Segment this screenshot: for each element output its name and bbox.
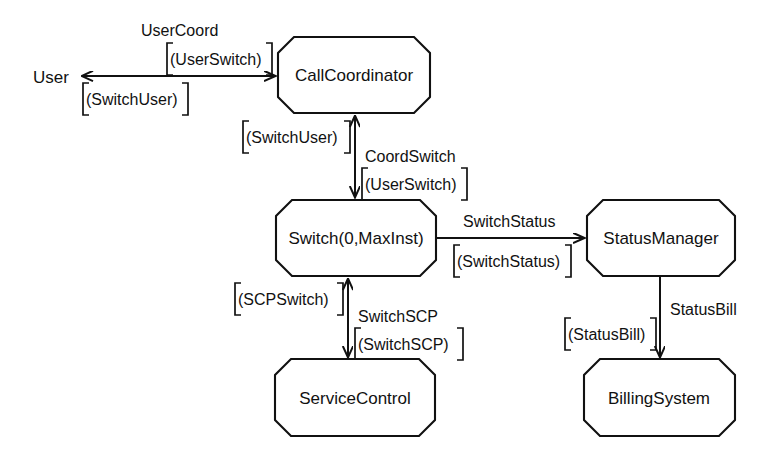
node-service-control[interactable]: ServiceControl bbox=[275, 359, 435, 436]
bracket-switchstatus-close bbox=[565, 245, 571, 277]
node-billing-system-label: BillingSystem bbox=[608, 389, 710, 408]
bracket-userswitch-close bbox=[266, 43, 272, 75]
edge-label-switchstatus: SwitchStatus bbox=[463, 213, 555, 230]
node-call-coordinator-label: CallCoordinator bbox=[295, 66, 413, 85]
edge-sublabel-scpswitch: (SCPSwitch) bbox=[238, 291, 329, 308]
node-switch[interactable]: Switch(0,MaxInst) bbox=[276, 200, 436, 276]
diagram-canvas: UserCoord (UserSwitch) (SwitchUser) Coor… bbox=[0, 0, 771, 456]
bracket-switchscp-close bbox=[457, 328, 463, 360]
node-call-coordinator[interactable]: CallCoordinator bbox=[278, 37, 430, 113]
bracket-statusbill-close bbox=[650, 318, 656, 350]
actor-user-label: User bbox=[33, 68, 69, 87]
edge-sublabel-switchscp: (SwitchSCP) bbox=[358, 336, 449, 353]
node-billing-system[interactable]: BillingSystem bbox=[584, 359, 735, 436]
bracket-switchuser-close bbox=[182, 83, 188, 115]
edge-sublabel-switchuser-1: (SwitchUser) bbox=[86, 91, 178, 108]
edge-switch-servicecontrol: SwitchSCP (SCPSwitch) (SwitchSCP) bbox=[235, 279, 463, 360]
node-service-control-label: ServiceControl bbox=[299, 389, 411, 408]
bracket-scpswitch-close bbox=[337, 283, 343, 315]
edge-sublabel-switchuser-2: (SwitchUser) bbox=[246, 129, 338, 146]
edge-label-switchscp: SwitchSCP bbox=[358, 308, 438, 325]
actor-user[interactable]: User bbox=[33, 68, 69, 87]
node-status-manager[interactable]: StatusManager bbox=[587, 200, 735, 276]
bracket-switchuser-2-close bbox=[344, 121, 350, 153]
node-status-manager-label: StatusManager bbox=[603, 229, 719, 248]
node-switch-label: Switch(0,MaxInst) bbox=[288, 229, 423, 248]
edge-label-usercoord: UserCoord bbox=[141, 22, 218, 39]
bracket-userswitch-2-close bbox=[461, 168, 467, 200]
edge-callcoordinator-switch: CoordSwitch (SwitchUser) (UserSwitch) bbox=[243, 116, 467, 200]
edge-sublabel-userswitch-2: (UserSwitch) bbox=[365, 176, 457, 193]
edge-label-coordswitch: CoordSwitch bbox=[365, 148, 456, 165]
edge-sublabel-switchstatus: (SwitchStatus) bbox=[457, 253, 560, 270]
edge-label-statusbill: StatusBill bbox=[670, 301, 737, 318]
diagram-svg: UserCoord (UserSwitch) (SwitchUser) Coor… bbox=[0, 0, 771, 456]
edge-user-callcoordinator: UserCoord (UserSwitch) (SwitchUser) bbox=[82, 22, 275, 115]
edge-sublabel-statusbill: (StatusBill) bbox=[568, 326, 645, 343]
edge-sublabel-userswitch-1: (UserSwitch) bbox=[170, 51, 262, 68]
edge-switch-statusmanager: SwitchStatus (SwitchStatus) bbox=[437, 213, 584, 277]
edge-statusmanager-billingsystem: StatusBill (StatusBill) bbox=[565, 277, 737, 357]
